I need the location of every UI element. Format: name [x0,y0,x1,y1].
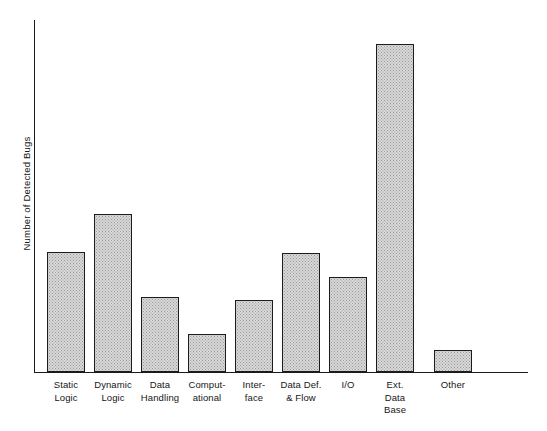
x-axis-line [34,372,528,373]
bar-chart: Number of Detected Bugs StaticLogicDynam… [0,0,547,431]
bar-static-logic [47,252,85,372]
x-label-line: Other [421,379,485,392]
x-label-line: Data [363,392,427,405]
bar-interface [235,300,273,372]
y-axis-line [34,20,35,372]
bar-data-def-flow [282,253,320,372]
x-label-line: Base [363,404,427,417]
x-label-ext-data-base: Ext.DataBase [363,379,427,417]
bar-ext-data-base [376,44,414,372]
plot-area [34,20,528,373]
x-label-line: & Flow [269,392,333,405]
y-axis-title: Number of Detected Bugs [21,94,32,294]
x-label-other: Other [421,379,485,392]
bar-dynamic-logic [94,214,132,372]
bar-data-handling [141,297,179,372]
bar-computational [188,334,226,372]
bar-other [434,350,472,372]
bar-i-o [329,277,367,372]
x-label-line: Ext. [363,379,427,392]
